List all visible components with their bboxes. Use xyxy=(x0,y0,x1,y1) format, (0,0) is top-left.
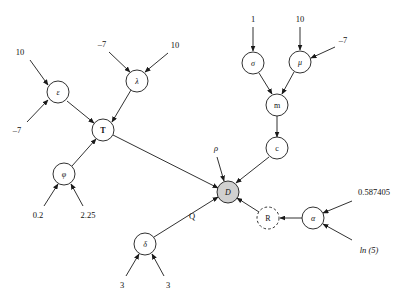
edge-c-to-D xyxy=(236,157,269,183)
edge-leaf-alpha-ln5-to-alpha xyxy=(323,224,352,240)
node-epsilon[interactable]: ε xyxy=(47,81,69,103)
edge-leaf-mu-neg7-to-mu xyxy=(311,47,335,58)
edge-leaf-eps-10-to-epsilon xyxy=(30,60,48,85)
node-label-phi: φ xyxy=(62,170,67,179)
leaf-eps-10: 10 xyxy=(16,47,25,57)
edge-leaf-lam-neg7-to-lambda xyxy=(109,52,130,72)
node-label-lambda: λ xyxy=(134,77,139,86)
edge-sigma-to-m xyxy=(259,73,272,94)
leaf-mu-10: 10 xyxy=(296,14,305,24)
node-mu[interactable]: μ xyxy=(289,51,311,73)
edge-delta-to-D xyxy=(154,197,218,237)
node-c[interactable]: c xyxy=(266,137,288,159)
leaf-mu-neg7: –7 xyxy=(338,35,348,45)
edge-leaf-phi-02-to-phi xyxy=(44,184,58,206)
node-R[interactable]: R xyxy=(257,207,279,229)
node-label-mu: μ xyxy=(297,58,302,67)
edge-leaf-delta-3b-to-delta xyxy=(152,254,164,276)
leaf-eps-neg7: –7 xyxy=(12,125,22,135)
edge-R-to-D xyxy=(237,198,259,212)
leaf-delta-3b: 3 xyxy=(166,280,170,290)
edge-mu-to-m xyxy=(282,72,294,94)
node-m[interactable]: m xyxy=(266,94,288,116)
edge-T-to-D xyxy=(113,135,218,188)
edge-leaf-eps-neg7-to-epsilon xyxy=(27,100,48,122)
leaf-phi-02: 0.2 xyxy=(33,210,44,220)
leaf-phi-225: 2.25 xyxy=(81,210,96,220)
leaf-alpha-ln5: ln (5) xyxy=(360,245,379,255)
node-label-c: c xyxy=(275,144,279,153)
node-lambda[interactable]: λ xyxy=(126,70,148,92)
leaf-delta-3a: 3 xyxy=(120,280,124,290)
leaf-labels-layer: 10–7–7100.22.2533110–70.587405ln (5) xyxy=(12,14,390,290)
leaf-lam-neg7: –7 xyxy=(97,39,107,49)
node-sigma[interactable]: σ xyxy=(242,52,264,74)
node-delta[interactable]: δ xyxy=(134,233,156,255)
node-label-D: D xyxy=(224,188,231,197)
diagram-canvas: ελTφδσμmcDRα 10–7–7100.22.2533110–70.587… xyxy=(0,0,401,304)
edge-tag-rho-to-D xyxy=(217,157,224,181)
node-phi[interactable]: φ xyxy=(53,163,75,185)
diagram-svg: ελTφδσμmcDRα 10–7–7100.22.2533110–70.587… xyxy=(0,0,401,304)
edge-tags-layer: ρQ xyxy=(189,143,218,221)
edge-leaf-lam-10-to-lambda xyxy=(145,53,168,72)
nodes-layer: ελTφδσμmcDRα xyxy=(47,51,324,255)
edge-leaf-phi-225-to-phi xyxy=(71,184,83,206)
edge-lambda-to-T xyxy=(112,90,131,122)
edge-leaf-alpha-num-to-alpha xyxy=(323,201,352,213)
leaf-lam-10: 10 xyxy=(171,40,180,50)
leaf-alpha-num: 0.587405 xyxy=(358,187,390,197)
edge-epsilon-to-T xyxy=(67,101,94,123)
node-T[interactable]: T xyxy=(92,119,114,141)
edge-leaf-delta-3a-to-delta xyxy=(126,254,139,276)
tag-rho: ρ xyxy=(213,143,218,153)
node-label-R: R xyxy=(265,214,271,223)
node-alpha[interactable]: α xyxy=(302,207,324,229)
node-D[interactable]: D xyxy=(217,181,239,203)
tag-Q: Q xyxy=(189,211,195,221)
leaf-sigma-1: 1 xyxy=(251,14,255,24)
edge-phi-to-T xyxy=(72,139,96,166)
node-label-m: m xyxy=(274,101,281,110)
node-label-T: T xyxy=(100,126,106,135)
node-label-delta: δ xyxy=(143,240,147,249)
